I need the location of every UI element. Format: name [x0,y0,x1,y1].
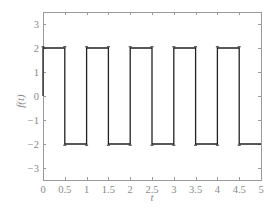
y-tick-label: 2 [34,43,39,54]
y-tick-label: 0 [34,91,39,102]
x-tick-label: 3.5 [189,184,202,195]
y-tick-label: −3 [28,163,39,174]
x-tick-label: 0.5 [58,184,71,195]
x-tick-label: 4.5 [233,184,246,195]
y-axis-label: f(t) [14,94,27,108]
x-tick-label: 5 [258,184,263,195]
x-tick-label: 0 [40,184,45,195]
x-tick-label: 4 [215,184,221,195]
x-tick-label: 1 [84,184,89,195]
x-tick-label: 1.5 [102,184,115,195]
y-tick-label: 1 [34,67,39,78]
y-tick-label: 3 [34,19,39,30]
square-wave-chart: 00.511.522.533.544.55 3210−1−2−3 t f(t) [0,0,276,217]
y-tick-label: −1 [28,115,39,126]
data-series [42,47,262,145]
x-tick-label: 3 [171,184,176,195]
y-tick-labels: 3210−1−2−3 [28,19,39,174]
square-wave-line [43,48,261,144]
y-tick-label: −2 [28,139,39,150]
x-tick-label: 2 [128,184,133,195]
